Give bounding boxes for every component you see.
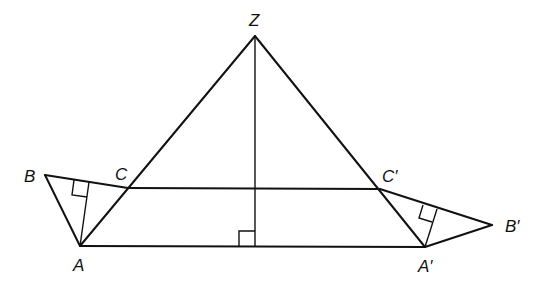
label-B: B bbox=[24, 167, 35, 186]
label-C: C bbox=[115, 165, 128, 184]
label-B-prime: B′ bbox=[505, 217, 520, 236]
label-Z: Z bbox=[248, 11, 260, 30]
segment-B-prime-A-prime bbox=[425, 225, 492, 247]
right-angle-marker-right bbox=[419, 205, 432, 222]
segment-AA-prime bbox=[80, 246, 425, 247]
label-A-prime: A′ bbox=[417, 257, 433, 276]
geometry-diagram: Z A A′ B B′ C C′ bbox=[0, 0, 539, 291]
segment-BA bbox=[45, 175, 80, 246]
segment-C-prime-B-prime bbox=[380, 189, 492, 225]
segment-ZA-prime bbox=[255, 36, 425, 247]
label-C-prime: C′ bbox=[382, 167, 398, 186]
label-A: A bbox=[72, 256, 84, 275]
right-angle-marker-left bbox=[72, 180, 87, 197]
segment-ZA bbox=[80, 36, 255, 246]
segment-CC-prime bbox=[128, 188, 380, 189]
perpendicular-from-A-prime bbox=[425, 209, 437, 247]
right-angle-marker-base bbox=[239, 231, 255, 246]
